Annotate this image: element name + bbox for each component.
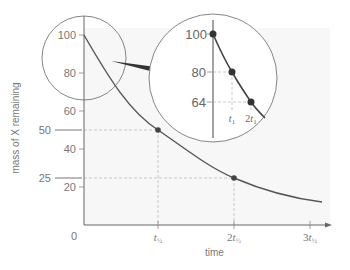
x3-sub: ½ bbox=[312, 237, 317, 245]
x-axis-title: time bbox=[205, 247, 224, 258]
inset-label-64: 64 bbox=[192, 95, 206, 110]
x1-sub: ½ bbox=[157, 237, 162, 245]
half-life-chart: 100 80 60 50 40 25 20 0 t½ 2t½ 3t½ mass … bbox=[0, 0, 350, 270]
inset-label-80: 80 bbox=[192, 65, 206, 80]
y-axis-title: mass of X remaining bbox=[10, 82, 21, 173]
x-tick-t-half: t½ bbox=[154, 231, 162, 245]
y-tick-100: 100 bbox=[58, 29, 76, 41]
y-tick-60: 60 bbox=[64, 105, 76, 117]
y-tick-20: 20 bbox=[64, 181, 76, 193]
point-2t-half bbox=[231, 175, 237, 181]
x2-sub: ½ bbox=[236, 237, 241, 245]
inset-point-100 bbox=[210, 31, 217, 38]
inset-label-100: 100 bbox=[185, 27, 207, 42]
inset-2t1-sub: 1 bbox=[253, 118, 257, 126]
x-tick-2t-half: 2t½ bbox=[227, 231, 241, 245]
inset-point-80 bbox=[229, 69, 236, 76]
inset-point-64 bbox=[248, 99, 255, 106]
y-tick-40: 40 bbox=[64, 143, 76, 155]
x-tick-3t-half: 3t½ bbox=[303, 231, 317, 245]
point-t-half bbox=[155, 127, 161, 133]
inset-t1-sub: 1 bbox=[232, 118, 236, 126]
y-tick-80: 80 bbox=[64, 67, 76, 79]
y-ticks bbox=[79, 35, 84, 187]
origin-label: 0 bbox=[71, 230, 77, 242]
y-tick-25: 25 bbox=[39, 172, 51, 184]
y-tick-50: 50 bbox=[39, 124, 51, 136]
